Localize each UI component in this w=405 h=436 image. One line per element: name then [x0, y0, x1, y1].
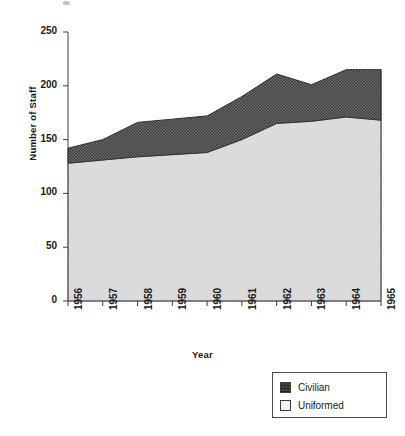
y-tick-label-50: 50 [23, 240, 57, 251]
legend-label-civilian: Civilian [298, 382, 330, 393]
legend-item-uniformed: Uniformed [280, 396, 386, 414]
y-tick-label-150: 150 [23, 133, 57, 144]
legend-item-civilian: Civilian [280, 378, 386, 396]
scan-artifact-speck [63, 1, 70, 5]
legend-label-uniformed: Uniformed [298, 400, 344, 411]
x-tick-label-1963: 1963 [316, 288, 327, 310]
y-tick-label-200: 200 [23, 79, 57, 90]
plot-area [0, 0, 405, 436]
y-tick-label-0: 0 [23, 294, 57, 305]
y-tick-label-100: 100 [23, 186, 57, 197]
x-tick-label-1960: 1960 [212, 288, 223, 310]
x-tick-label-1957: 1957 [108, 288, 119, 310]
x-tick-label-1956: 1956 [73, 288, 84, 310]
legend-swatch-civilian [280, 382, 291, 393]
chart-legend: Civilian Uniformed [272, 372, 387, 418]
x-tick-label-1958: 1958 [143, 288, 154, 310]
x-tick-label-1964: 1964 [351, 288, 362, 310]
x-tick-label-1962: 1962 [282, 288, 293, 310]
staff-stacked-area-chart: Number of Staff Year 050100150200250 195… [0, 0, 405, 436]
x-tick-label-1959: 1959 [177, 288, 188, 310]
legend-swatch-uniformed [280, 400, 291, 411]
x-axis-title: Year [0, 349, 405, 360]
x-tick-label-1961: 1961 [247, 288, 258, 310]
x-tick-label-1965: 1965 [386, 288, 397, 310]
area-series-group [68, 70, 381, 301]
y-tick-label-250: 250 [23, 25, 57, 36]
